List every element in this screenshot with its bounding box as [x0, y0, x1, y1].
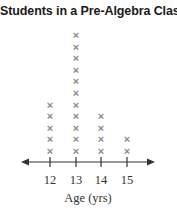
x-mark-icon: × — [73, 29, 79, 41]
x-mark-icon: × — [47, 145, 53, 157]
tick-label-13: 13 — [70, 173, 83, 187]
x-axis-label: Age (yrs) — [64, 191, 112, 205]
x-mark-icon: × — [73, 75, 79, 87]
x-mark-icon: × — [124, 133, 130, 145]
x-mark-icon: × — [47, 110, 53, 122]
right-arrow-icon — [147, 159, 155, 166]
x-mark-icon: × — [98, 145, 104, 157]
x-mark-icon: × — [124, 145, 130, 157]
x-mark-icon: × — [47, 99, 53, 111]
x-mark-icon: × — [47, 122, 53, 134]
x-mark-icon: × — [98, 122, 104, 134]
left-arrow-icon — [21, 159, 29, 166]
x-mark-icon: × — [73, 122, 79, 134]
x-mark-icon: × — [98, 133, 104, 145]
x-mark-icon: × — [73, 99, 79, 111]
x-mark-icon: × — [73, 41, 79, 53]
x-mark-icon: × — [73, 145, 79, 157]
data-marks: ×××××××××××××××××××××× — [47, 29, 130, 157]
x-mark-icon: × — [73, 87, 79, 99]
tick-labels: 12131415 — [44, 173, 134, 187]
tick-label-15: 15 — [121, 173, 134, 187]
dot-plot: 12131415 ×××××××××××××××××××××× Age (yrs… — [0, 0, 177, 211]
x-mark-icon: × — [73, 110, 79, 122]
x-mark-icon: × — [98, 110, 104, 122]
x-mark-icon: × — [73, 64, 79, 76]
tick-label-12: 12 — [44, 173, 57, 187]
x-mark-icon: × — [73, 52, 79, 64]
tick-label-14: 14 — [95, 173, 108, 187]
x-mark-icon: × — [73, 133, 79, 145]
x-mark-icon: × — [47, 133, 53, 145]
